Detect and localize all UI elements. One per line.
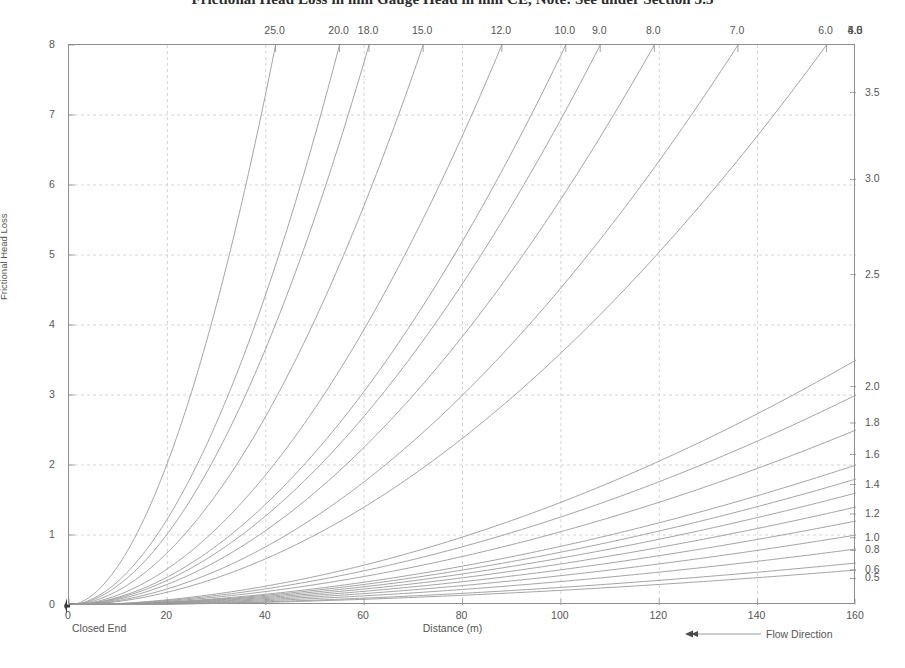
right-tick-2.0: 2.0 — [865, 380, 880, 392]
top-tick-8.0: 8.0 — [646, 24, 661, 36]
right-tick-3.5: 3.5 — [865, 86, 880, 98]
x-tick-20: 20 — [161, 609, 173, 621]
closed-end-annotation: Closed End — [72, 622, 126, 634]
y-tick-3: 3 — [49, 388, 55, 400]
plot-area — [68, 44, 855, 604]
x-tick-120: 120 — [649, 609, 667, 621]
top-tick-25.0: 25.0 — [264, 24, 284, 36]
y-axis-label: Frictional Head Loss — [0, 213, 9, 300]
chart-canvas — [69, 45, 856, 605]
left-arrow-icon — [685, 628, 763, 640]
top-tick-9.0: 9.0 — [592, 24, 607, 36]
y-tick-0: 0 — [49, 598, 55, 610]
x-tick-160: 160 — [846, 609, 864, 621]
y-tick-8: 8 — [49, 38, 55, 50]
right-tick-1.4: 1.4 — [865, 478, 880, 490]
y-tick-7: 7 — [49, 108, 55, 120]
flow-direction-label: Flow Direction — [766, 628, 833, 640]
y-tick-5: 5 — [49, 248, 55, 260]
top-tick-4.0: 4.0 — [848, 24, 863, 36]
right-tick-1.6: 1.6 — [865, 448, 880, 460]
x-tick-60: 60 — [357, 609, 369, 621]
right-tick-3.0: 3.0 — [865, 172, 880, 184]
y-tick-4: 4 — [49, 318, 55, 330]
grid-lines — [69, 45, 856, 605]
right-tick-2.5: 2.5 — [865, 268, 880, 280]
right-tick-0.5: 0.5 — [865, 571, 880, 583]
x-tick-0: 0 — [65, 609, 71, 621]
top-tick-10.0: 10.0 — [555, 24, 575, 36]
top-tick-15.0: 15.0 — [412, 24, 432, 36]
x-tick-140: 140 — [748, 609, 766, 621]
top-tick-6.0: 6.0 — [818, 24, 833, 36]
right-tick-1.2: 1.2 — [865, 507, 880, 519]
x-tick-40: 40 — [259, 609, 271, 621]
page-title: Frictional Head Loss in mm Gauge Head in… — [0, 0, 905, 8]
top-tick-7.0: 7.0 — [730, 24, 745, 36]
x-tick-80: 80 — [456, 609, 468, 621]
top-tick-18.0: 18.0 — [358, 24, 378, 36]
right-tick-0.8: 0.8 — [865, 543, 880, 555]
y-tick-6: 6 — [49, 178, 55, 190]
y-tick-1: 1 — [49, 528, 55, 540]
top-tick-12.0: 12.0 — [491, 24, 511, 36]
right-tick-1.8: 1.8 — [865, 416, 880, 428]
x-tick-100: 100 — [551, 609, 569, 621]
top-tick-20.0: 20.0 — [328, 24, 348, 36]
y-tick-2: 2 — [49, 458, 55, 470]
curve-7.0 — [69, 45, 738, 605]
right-tick-1.0: 1.0 — [865, 531, 880, 543]
curve-8.0 — [69, 45, 654, 605]
flow-direction-legend: Flow Direction — [685, 628, 833, 640]
